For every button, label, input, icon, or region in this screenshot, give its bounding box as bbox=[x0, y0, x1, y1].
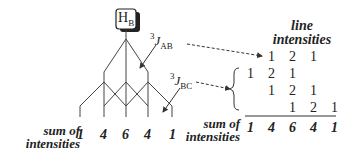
bc-row3-1: 1 bbox=[289, 101, 296, 115]
bc-row3-3: 1 bbox=[331, 101, 338, 115]
tree-sum-1: 1 bbox=[77, 128, 84, 142]
tree-sum-2: 4 bbox=[100, 128, 107, 142]
ab-row-2: 2 bbox=[289, 50, 296, 64]
ab-row-3: 1 bbox=[310, 50, 317, 64]
table-sum-1: 1 bbox=[247, 121, 254, 135]
bc-row2-2: 2 bbox=[289, 84, 296, 98]
tree-sum-label: sum ofintensities bbox=[20, 124, 80, 150]
ab-row-1: 1 bbox=[268, 50, 275, 64]
table-sum-label: sum ofintensities bbox=[172, 117, 240, 143]
bc-row1-3: 1 bbox=[289, 67, 296, 81]
tree-sum-3: 6 bbox=[122, 128, 129, 142]
hb-subscript: B bbox=[128, 18, 134, 28]
bc-row1-1: 1 bbox=[247, 67, 254, 81]
coupling-jab-label: 3JAB bbox=[150, 32, 173, 51]
table-sum-2: 4 bbox=[268, 121, 275, 135]
hb-box-label: HB bbox=[118, 11, 134, 28]
bc-row2-3: 1 bbox=[310, 84, 317, 98]
bc-row2-1: 1 bbox=[268, 84, 275, 98]
table-sum-4: 4 bbox=[310, 121, 317, 135]
splitting-tree-diagram: HB 3JAB 3JBC sum ofintensities 1 4 6 4 1… bbox=[0, 0, 356, 153]
tree-sum-4: 4 bbox=[144, 128, 151, 142]
table-sum-5: 1 bbox=[331, 121, 338, 135]
table-sum-3: 6 bbox=[289, 121, 296, 135]
coupling-jbc-label: 3JBC bbox=[170, 72, 192, 91]
hb-symbol: H bbox=[118, 10, 128, 25]
table-header: lineintensities bbox=[262, 19, 342, 47]
bc-row3-2: 2 bbox=[310, 101, 317, 115]
bc-row1-2: 2 bbox=[268, 67, 275, 81]
